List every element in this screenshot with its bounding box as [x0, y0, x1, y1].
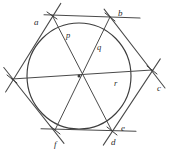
hexagon-side-lower-right	[103, 59, 160, 145]
center-point	[78, 75, 81, 78]
label-f: f	[54, 140, 57, 149]
label-q: q	[97, 43, 101, 52]
label-e: e	[121, 124, 125, 133]
label-r: r	[114, 79, 117, 88]
label-c: c	[157, 84, 161, 93]
geometry-diagram	[0, 0, 176, 156]
label-a: a	[34, 18, 39, 27]
label-p: p	[66, 31, 70, 40]
hexagon-side-top	[44, 15, 140, 18]
label-b: b	[118, 9, 123, 18]
label-d: d	[111, 138, 116, 147]
hexagon-side-upper-right	[104, 9, 165, 88]
geometry-figure: a b c d e f p q r	[0, 0, 176, 156]
